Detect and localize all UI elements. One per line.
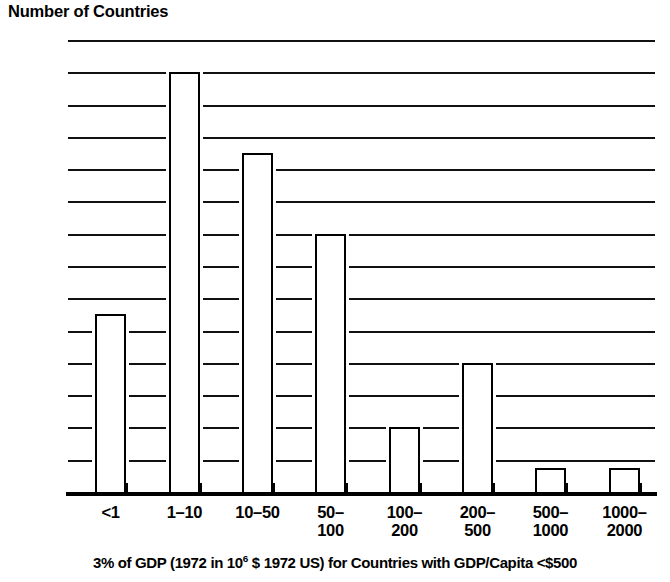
gridline-segment: [349, 427, 386, 429]
gridline-segment: [203, 105, 655, 107]
gridline-segment: [276, 460, 312, 462]
x-axis-category-label: <1: [69, 503, 152, 521]
x-axis-category-label: 50– 100: [289, 503, 372, 540]
gridline-segment: [203, 266, 239, 268]
gridline-segment: [496, 363, 655, 365]
x-axis-category-label: 100– 200: [363, 503, 446, 540]
bar-10-50: [242, 153, 273, 494]
x-axis-tick-mark: [389, 483, 391, 492]
x-axis-tick-mark: [609, 483, 611, 492]
caption-text-pre: 3% of GDP (1972 in 10: [93, 554, 243, 571]
gridline-segment: [349, 234, 655, 236]
bar-chart-figure: Number of Countries 24681012141618202224…: [0, 0, 670, 582]
gridline-segment: [68, 331, 92, 333]
gridline-segment: [276, 395, 312, 397]
gridline-segment: [68, 427, 92, 429]
gridline-segment: [203, 427, 239, 429]
gridline-segment: [496, 427, 655, 429]
gridline-segment: [496, 460, 655, 462]
gridline-segment: [129, 427, 166, 429]
gridline-segment: [276, 169, 655, 171]
x-axis-tick-mark: [95, 483, 97, 492]
gridline-segment: [276, 331, 312, 333]
gridline-segment: [349, 266, 655, 268]
gridline-segment: [203, 169, 239, 171]
x-axis-tick-mark: [420, 483, 422, 492]
gridline-segment: [68, 298, 166, 300]
x-axis-tick-mark: [346, 483, 348, 492]
gridline-segment: [68, 460, 92, 462]
gridline-segment: [276, 363, 312, 365]
bar-50-100: [315, 234, 346, 494]
gridline-segment: [68, 395, 92, 397]
gridline-segment: [68, 234, 166, 236]
gridline-segment: [349, 331, 655, 333]
gridline-segment: [68, 266, 166, 268]
gridline-segment: [423, 427, 459, 429]
x-axis-tick-mark: [640, 483, 642, 492]
bar-500-1000: [535, 468, 566, 494]
gridline-segment: [276, 298, 312, 300]
gridline-segment: [68, 72, 166, 74]
x-axis-category-label: 500– 1000: [509, 503, 592, 540]
x-axis-tick-mark: [242, 483, 244, 492]
x-axis-category-label: 200– 500: [436, 503, 519, 540]
gridline-segment: [496, 395, 655, 397]
gridline-segment: [349, 298, 655, 300]
y-axis-title: Number of Countries: [8, 2, 168, 21]
gridline-segment: [68, 363, 92, 365]
caption-text-post: $ 1972 US) for Countries with GDP/Capita…: [248, 554, 577, 571]
x-axis-category-label: 10–50: [216, 503, 299, 521]
gridline-segment: [349, 460, 386, 462]
gridline-segment: [68, 40, 655, 42]
gridline-segment: [68, 137, 166, 139]
gridline-segment: [349, 363, 459, 365]
gridline-segment: [203, 363, 239, 365]
x-axis-baseline: [66, 492, 657, 496]
x-axis-tick-mark: [200, 483, 202, 492]
x-axis-category-label: 1000– 2000: [583, 503, 666, 540]
x-axis-category-label: 1–10: [143, 503, 226, 521]
gridline-segment: [203, 460, 239, 462]
gridline-segment: [276, 201, 655, 203]
x-axis-tick-mark: [273, 483, 275, 492]
gridline-segment: [129, 460, 166, 462]
gridline-segment: [423, 460, 459, 462]
gridline-segment: [203, 201, 239, 203]
x-axis-tick-mark: [493, 483, 495, 492]
gridline-segment: [276, 234, 312, 236]
gridline-segment: [68, 169, 166, 171]
gridline-segment: [349, 395, 459, 397]
gridline-segment: [68, 201, 166, 203]
x-axis-tick-mark: [315, 483, 317, 492]
x-axis-tick-mark: [535, 483, 537, 492]
figure-caption: 3% of GDP (1972 in 106 $ 1972 US) for Co…: [0, 554, 670, 571]
gridline-segment: [129, 331, 166, 333]
gridline-segment: [203, 395, 239, 397]
bar-200-500: [462, 363, 493, 494]
bar-1000-2000: [609, 468, 640, 494]
x-axis-tick-mark: [462, 483, 464, 492]
gridline-segment: [68, 105, 166, 107]
bar-1-10: [169, 72, 200, 494]
gridline-segment: [276, 427, 312, 429]
bar-<1: [95, 314, 126, 494]
gridline-segment: [203, 234, 239, 236]
gridline-segment: [203, 72, 655, 74]
gridline-segment: [203, 298, 239, 300]
x-axis-tick-mark: [126, 483, 128, 492]
x-axis-tick-mark: [169, 483, 171, 492]
bar-100-200: [389, 427, 420, 494]
gridline-segment: [203, 331, 239, 333]
gridline-segment: [129, 395, 166, 397]
plot-area: 2468101214161820222426280<11–1010–5050– …: [68, 40, 655, 492]
x-axis-tick-mark: [566, 483, 568, 492]
gridline-segment: [276, 266, 312, 268]
gridline-segment: [203, 137, 655, 139]
gridline-segment: [129, 363, 166, 365]
